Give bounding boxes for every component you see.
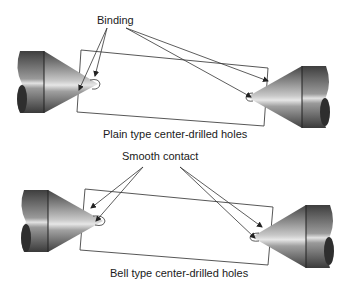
smooth-contact-callout-label: Smooth contact bbox=[122, 150, 198, 162]
workpiece-top bbox=[77, 50, 268, 126]
plain-type-diagram bbox=[17, 28, 330, 128]
plain-type-caption: Plain type center-drilled holes bbox=[103, 128, 247, 140]
workpiece-bottom bbox=[80, 189, 273, 265]
smooth-contact-callout-arrows bbox=[91, 167, 262, 238]
center-drilled-holes-diagram bbox=[0, 0, 349, 284]
right-lathe-center-top bbox=[246, 66, 330, 128]
bell-type-caption: Bell type center-drilled holes bbox=[110, 267, 248, 279]
right-lathe-center-bottom bbox=[250, 205, 334, 268]
bell-type-diagram bbox=[21, 167, 334, 268]
binding-callout-label: Binding bbox=[97, 14, 134, 26]
left-lathe-center-top bbox=[17, 51, 100, 113]
binding-callout-arrows bbox=[79, 28, 268, 97]
left-lathe-center-bottom bbox=[21, 190, 105, 252]
